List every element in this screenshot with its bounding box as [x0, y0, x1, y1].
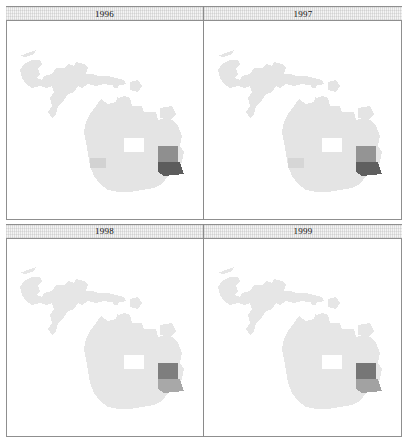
panel-year-label-1997: 1997	[287, 9, 318, 19]
high-county-1999	[356, 363, 376, 379]
panel-1996: 1996	[6, 6, 204, 220]
unfilled-county-1998	[124, 355, 144, 369]
highest-county-1998	[158, 379, 184, 393]
map-plot-1998	[6, 239, 203, 438]
panel-year-label-1998: 1998	[89, 226, 120, 236]
panel-1997: 1997	[204, 6, 402, 220]
panel-header-1996: 1996	[6, 6, 203, 21]
michigan-map-1998	[12, 251, 198, 423]
unfilled-county-1999	[322, 355, 342, 369]
michigan-map-1997	[210, 34, 396, 206]
map-plot-1999	[204, 239, 402, 438]
high-county-1998	[158, 363, 178, 379]
unfilled-county-1996	[124, 138, 144, 152]
medium-county-1997	[288, 158, 304, 168]
map-plot-1997	[204, 21, 402, 220]
michigan-map-1996	[12, 34, 198, 206]
medium-county-1996	[90, 158, 106, 168]
high-county-1996	[158, 146, 178, 162]
panel-header-1998: 1998	[6, 224, 203, 239]
panel-1998: 1998	[6, 224, 204, 438]
highest-county-1996	[158, 162, 184, 176]
panel-1999: 1999	[204, 224, 402, 438]
unfilled-county-1997	[322, 138, 342, 152]
figure-canvas: 1996	[0, 0, 408, 443]
small-multiples-grid: 1996	[6, 6, 402, 437]
panel-header-1999: 1999	[204, 224, 402, 239]
high-county-1997	[356, 146, 376, 162]
highest-county-1997	[356, 162, 382, 176]
panel-header-1997: 1997	[204, 6, 402, 21]
map-plot-1996	[6, 21, 203, 220]
highest-county-1999	[356, 379, 382, 393]
panel-year-label-1999: 1999	[287, 226, 318, 236]
michigan-map-1999	[210, 251, 396, 423]
panel-year-label-1996: 1996	[89, 9, 120, 19]
